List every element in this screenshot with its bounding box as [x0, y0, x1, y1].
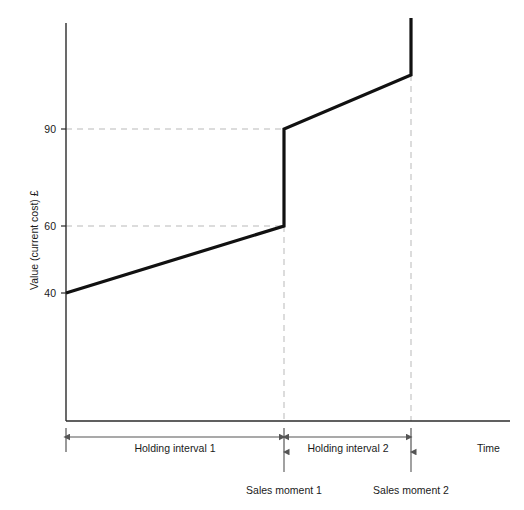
x-axis-title: Time	[477, 443, 500, 454]
y-tick-label-90: 90	[36, 124, 56, 135]
holding-interval-1-label: Holding interval 1	[75, 443, 275, 454]
value-series-line	[66, 18, 411, 293]
chart-figure: 90 60 40 Value (current cost) £ Holding …	[0, 0, 524, 510]
y-axis-title: Value (current cost) £	[29, 190, 40, 290]
sales-moment-1-label: Sales moment 1	[224, 485, 344, 496]
chart-plot-area	[0, 0, 524, 510]
sales-moment-2-label: Sales moment 2	[351, 485, 471, 496]
holding-interval-2-label: Holding interval 2	[288, 443, 408, 454]
